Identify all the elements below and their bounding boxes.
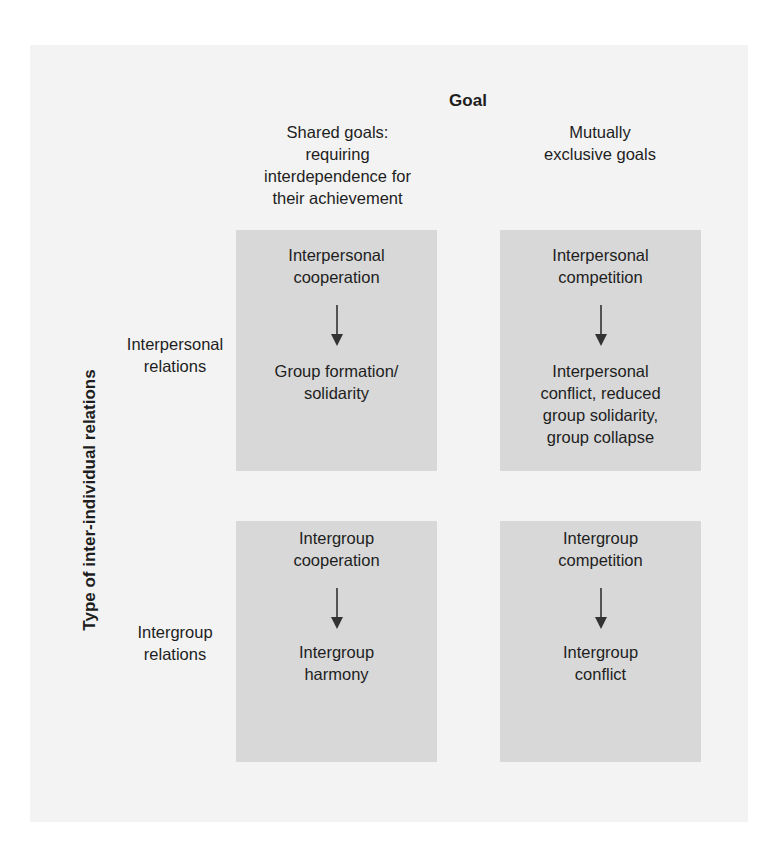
cell-cause-text: Intergroup competition <box>500 527 701 571</box>
row-label-interpersonal: Interpersonal relations <box>100 333 250 377</box>
cell-intergroup-competition: Intergroup competition Intergroup confli… <box>500 521 701 762</box>
row-axis-title: Type of inter-individual relations <box>80 369 100 630</box>
cell-effect-text: Intergroup harmony <box>236 641 437 685</box>
cell-effect-text: Group formation/ solidarity <box>236 360 437 404</box>
column-header-shared-goals: Shared goals: requiring interdependence … <box>230 121 445 209</box>
cell-effect-text: Interpersonal conflict, reduced group so… <box>500 360 701 448</box>
cell-interpersonal-cooperation: Interpersonal cooperation Group formatio… <box>236 230 437 471</box>
cell-interpersonal-competition: Interpersonal competition Interpersonal … <box>500 230 701 471</box>
cell-intergroup-cooperation: Intergroup cooperation Intergroup harmon… <box>236 521 437 762</box>
cell-cause-text: Intergroup cooperation <box>236 527 437 571</box>
column-header-mutually-exclusive-goals: Mutually exclusive goals <box>490 121 710 165</box>
cell-cause-text: Interpersonal competition <box>500 244 701 288</box>
cell-cause-text: Interpersonal cooperation <box>236 244 437 288</box>
goal-heading: Goal <box>418 91 518 111</box>
cell-effect-text: Intergroup conflict <box>500 641 701 685</box>
row-label-intergroup: Intergroup relations <box>100 621 250 665</box>
